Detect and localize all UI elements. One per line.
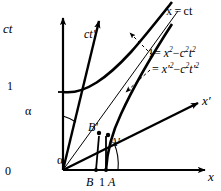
point-label-b: B bbox=[86, 176, 93, 188]
origin-label: 0 bbox=[5, 165, 11, 177]
minkowski-spacetime-diagram: ct ct′ x = ct x′ x 1 0 α α B′ A′ B 1 A 1… bbox=[0, 0, 221, 191]
angle-label-lower: α bbox=[57, 154, 63, 166]
ct-axis-label: ct bbox=[3, 22, 12, 35]
ct-unit-tick-label: 1 bbox=[7, 80, 13, 92]
x-axis-label: x bbox=[208, 170, 214, 183]
point-label-a-prime: A′ bbox=[110, 136, 120, 148]
diagram-canvas bbox=[0, 0, 221, 191]
angle-arc-upper bbox=[63, 116, 76, 122]
point-a bbox=[104, 168, 108, 172]
light-cone-label: x = ct bbox=[166, 5, 192, 17]
x-prime-axis-label: x′ bbox=[202, 94, 211, 107]
point-b bbox=[94, 168, 98, 172]
angle-label-upper: α bbox=[25, 105, 31, 117]
eq2-term1-base: x′ bbox=[162, 62, 170, 76]
eq1-minus: − bbox=[173, 46, 180, 60]
invariant-equation-line-1: 1= x2−c2t2 bbox=[148, 47, 196, 59]
eq1-term2-t-exponent: 2 bbox=[192, 45, 196, 54]
eq2-equals: = bbox=[152, 62, 159, 76]
x-prime-axis-line bbox=[63, 103, 198, 170]
invariant-equation-line-2: = x′2−c2t′2 bbox=[152, 63, 199, 75]
point-label-b-prime: B′ bbox=[88, 121, 98, 133]
eq1-equals: = bbox=[154, 46, 161, 60]
ct-prime-axis-label: ct′ bbox=[84, 28, 95, 40]
point-label-a: A bbox=[108, 176, 115, 188]
eq2-term2-t-exponent: 2 bbox=[195, 61, 199, 70]
x-unit-tick-label: 1 bbox=[99, 176, 105, 188]
ct-prime-axis-line bbox=[63, 21, 99, 170]
